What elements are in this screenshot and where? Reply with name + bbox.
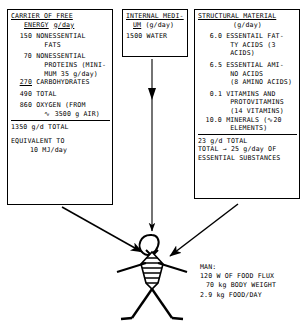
energy-header-line2-row: ENERGYg/day bbox=[11, 21, 110, 30]
energy-row-fats-value: 150 bbox=[11, 32, 32, 41]
box-internal-medium: INTERNAL MEDI- UM (g/day) 1500 WATER bbox=[122, 9, 188, 57]
structural-row-vitamins-text: VITAMINS AND bbox=[226, 90, 275, 98]
energy-row-proteins-text3: MUM 35 g/day) bbox=[44, 70, 98, 78]
structural-header-units: (g/day) bbox=[198, 21, 297, 30]
structural-row-vitamins: 0.1 VITAMINS AND bbox=[198, 90, 297, 99]
energy-row-proteins-text: NONESSENTIAL bbox=[36, 52, 85, 60]
structural-row-vitamins-value: 0.1 bbox=[198, 90, 222, 99]
man-caption-title: MAN: bbox=[200, 263, 300, 272]
arrow-structural-to-man bbox=[170, 204, 238, 256]
man-neck-cross bbox=[146, 250, 158, 262]
medium-header-line1: INTERNAL MEDI- bbox=[126, 12, 185, 21]
man-arm-left bbox=[117, 263, 146, 272]
energy-row-fats-text2: FATS bbox=[44, 41, 60, 49]
energy-row-proteins-value: 70 bbox=[11, 52, 32, 61]
energy-header-line1: CARRIER OF FREE bbox=[11, 12, 110, 21]
man-torso bbox=[141, 252, 163, 289]
man-caption: MAN: 120 W OF FOOD FLUX 70 kg BODY WEIGH… bbox=[200, 263, 300, 300]
structural-total-line1: 23 g/d TOTAL bbox=[198, 137, 297, 146]
structural-row-fatty-cont1: TY ACIDS (3 bbox=[198, 41, 297, 50]
energy-equivalent-value: 10 MJ/day bbox=[30, 146, 67, 154]
energy-subtotal: 490 TOTAL bbox=[11, 90, 110, 99]
medium-header-line2: UM bbox=[133, 21, 141, 29]
energy-row-proteins-cont1: PROTEINS (MINI- bbox=[11, 61, 110, 70]
structural-row-vitamins-cont1: PROTOVITAMINS bbox=[198, 98, 297, 107]
energy-row-carbohydrates-text: CARBOHYDRATES bbox=[36, 78, 90, 86]
structural-row-amino-cont2: (8 AMINO ACIDS) bbox=[198, 78, 297, 87]
structural-row-vitamins-text2: PROTOVITAMINS bbox=[230, 98, 284, 106]
structural-total-divider bbox=[198, 134, 297, 135]
medium-row-water: 1500 WATER bbox=[126, 32, 185, 41]
energy-row-oxygen-cont: ∿ 3500 g AIR) bbox=[11, 110, 110, 119]
man-caption-line-food-per-day: 2.9 kg FOOD/DAY bbox=[200, 291, 300, 300]
box-structural-material: STRUCTURAL MATERIAL (g/day) 6.0 ESSENTAI… bbox=[194, 9, 300, 199]
energy-row-carbohydrates-value: 270 bbox=[11, 78, 32, 87]
energy-subtotal-label: TOTAL bbox=[36, 90, 57, 98]
structural-row-minerals-cont: ELEMENTS) bbox=[198, 124, 297, 133]
man-arm-right bbox=[158, 263, 187, 272]
energy-row-fats-text: NONESSENTIAL bbox=[36, 32, 85, 40]
energy-equivalent-line1: EQUIVALENT TO bbox=[11, 137, 110, 146]
structural-row-fatty-value: 6.0 bbox=[198, 32, 222, 41]
energy-grand-total: 1350 g/d TOTAL bbox=[11, 123, 110, 132]
energy-row-fats: 150 NONESSENTIAL bbox=[11, 32, 110, 41]
man-leg-right bbox=[152, 289, 172, 318]
structural-row-fatty-text3: ACIDS) bbox=[230, 49, 255, 57]
energy-row-oxygen-text2: ∿ 3500 g AIR) bbox=[44, 110, 100, 118]
man-caption-line-body-weight: 70 kg BODY WEIGHT bbox=[200, 281, 300, 290]
energy-row-oxygen-text: OXYGEN (FROM bbox=[36, 101, 85, 109]
structural-row-vitamins-text3: (14 VITAMINS) bbox=[230, 107, 284, 115]
energy-total-divider bbox=[11, 120, 110, 121]
structural-total-line2: TOTAL → 25 g/day OF bbox=[198, 145, 297, 154]
medium-row-water-text: WATER bbox=[147, 32, 168, 40]
energy-row-fats-cont: FATS bbox=[11, 41, 110, 50]
man-foot-left bbox=[121, 318, 132, 319]
structural-row-amino-cont1: NO ACIDS bbox=[198, 70, 297, 79]
man-foot-right bbox=[172, 318, 183, 319]
structural-row-amino: 6.5 ESSENTIAL AMI- bbox=[198, 61, 297, 70]
energy-header-line2: ENERGY bbox=[24, 21, 49, 29]
arrow-medium-mid-head bbox=[148, 88, 156, 100]
structural-row-minerals-text: MINERALS (∿20 bbox=[226, 116, 282, 124]
structural-row-amino-text2: NO ACIDS bbox=[230, 70, 263, 78]
flux-diagram: CARRIER OF FREE ENERGYg/day 150 NONESSEN… bbox=[0, 0, 302, 322]
man-torso-hatching bbox=[138, 258, 166, 283]
energy-subtotal-value: 490 bbox=[11, 90, 32, 99]
structural-row-amino-value: 6.5 bbox=[198, 61, 222, 70]
structural-total-line3: ESSENTIAL SUBSTANCES bbox=[198, 154, 297, 163]
box-carrier-of-free-energy: CARRIER OF FREE ENERGYg/day 150 NONESSEN… bbox=[7, 9, 113, 205]
medium-header-line2-row: UM (g/day) bbox=[126, 21, 185, 30]
energy-header-units: g/day bbox=[54, 21, 75, 29]
structural-row-fatty-text2: TY ACIDS (3 bbox=[230, 41, 275, 49]
man-caption-line-food-flux: 120 W OF FOOD FLUX bbox=[200, 272, 300, 281]
energy-row-oxygen: 860 OXYGEN (FROM bbox=[11, 101, 110, 110]
energy-row-proteins-cont2: MUM 35 g/day) bbox=[11, 70, 110, 79]
structural-row-fatty: 6.0 ESSENTAIL FAT- bbox=[198, 32, 297, 41]
energy-row-carbohydrates: 270 CARBOHYDRATES bbox=[11, 78, 110, 87]
structural-row-minerals-text2: ELEMENTS) bbox=[230, 124, 267, 132]
arrow-energy-to-man bbox=[62, 207, 142, 252]
energy-row-proteins-text2: PROTEINS (MINI- bbox=[44, 61, 106, 69]
structural-row-vitamins-cont2: (14 VITAMINS) bbox=[198, 107, 297, 116]
man-head bbox=[140, 235, 159, 255]
structural-row-fatty-cont2: ACIDS) bbox=[198, 49, 297, 58]
structural-row-minerals: 10.0 MINERALS (∿20 bbox=[198, 116, 297, 125]
medium-row-water-value: 1500 bbox=[126, 32, 142, 40]
energy-row-oxygen-value: 860 bbox=[11, 101, 32, 110]
structural-row-minerals-value: 10.0 bbox=[198, 116, 222, 125]
structural-header-line1: STRUCTURAL MATERIAL bbox=[198, 12, 297, 21]
structural-row-amino-text: ESSENTIAL AMI- bbox=[226, 61, 284, 69]
energy-row-proteins: 70 NONESSENTIAL bbox=[11, 52, 110, 61]
structural-row-fatty-text: ESSENTAIL FAT- bbox=[226, 32, 284, 40]
man-leg-left bbox=[132, 289, 152, 318]
structural-row-amino-text3: (8 AMINO ACIDS) bbox=[230, 78, 292, 86]
medium-header-units: (g/day) bbox=[145, 21, 174, 29]
energy-equivalent-line2: 10 MJ/day bbox=[11, 146, 110, 155]
